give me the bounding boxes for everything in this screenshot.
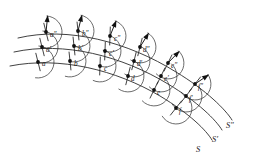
- node-dot-S-c: [98, 64, 102, 68]
- node-dot-S-e: [152, 88, 156, 92]
- wavefront-label-S'': S″: [226, 121, 234, 130]
- point-label-S'-b′: b′: [78, 45, 84, 53]
- normal-arrow-head-d″: [143, 33, 149, 40]
- point-label-S'-a′: a′: [46, 46, 52, 54]
- point-label-S''-b″: b″: [82, 30, 90, 38]
- node-dot-S''-d″: [138, 45, 142, 49]
- wavefront-label-S': S′: [212, 135, 218, 144]
- point-label-S''-a″: a″: [50, 31, 58, 39]
- point-label-S''-f″: f″: [198, 83, 204, 91]
- node-dot-S'-c′: [103, 49, 107, 53]
- wavelet-arc-S-f: [162, 98, 192, 124]
- node-dot-S-d: [126, 74, 130, 78]
- front-label-layer: SS′S″: [196, 121, 234, 154]
- point-label-S'-e′: e′: [164, 75, 169, 83]
- point-label-S-d: d: [131, 75, 135, 83]
- node-dot-S''-a″: [44, 30, 48, 34]
- point-label-S-c: c: [104, 65, 108, 73]
- point-label-S'-f′: f′: [189, 95, 193, 103]
- normal-arrow-head-c″: [111, 20, 116, 27]
- wavelet-arc-layer: [36, 15, 212, 124]
- point-label-S'-d′: d′: [137, 60, 143, 68]
- node-dot-S'-b′: [72, 44, 76, 48]
- node-dot-S'-f′: [184, 94, 188, 98]
- point-label-S''-e″: e″: [171, 62, 178, 70]
- huygens-wavefront-figure: abcdefa′b′c′d′e′f′a″b″c″d″e″f″ SS′S″: [0, 0, 256, 160]
- node-dot-S''-e″: [166, 61, 170, 65]
- node-dot-S-b: [68, 59, 72, 63]
- point-label-S-a: a: [42, 60, 46, 68]
- normal-arrow-head-b″: [78, 15, 83, 22]
- node-dot-S'-e′: [159, 74, 163, 78]
- node-dot-S'-d′: [132, 59, 136, 63]
- wavefront-label-S: S: [196, 145, 201, 154]
- node-dot-S'-a′: [40, 45, 44, 49]
- point-label-S'-c′: c′: [109, 50, 114, 58]
- node-dot-S''-f″: [193, 82, 197, 86]
- node-dot-S''-b″: [76, 29, 80, 33]
- point-label-S''-c″: c″: [114, 35, 121, 43]
- node-dot-S-a: [36, 60, 40, 64]
- normal-arrow-head-f″: [202, 74, 209, 80]
- node-dot-S''-c″: [108, 34, 112, 38]
- node-dot-S-f: [174, 106, 178, 110]
- point-label-S-b: b: [74, 60, 78, 68]
- point-label-layer: abcdefa′b′c′d′e′f′a″b″c″d″e″f″: [42, 30, 204, 115]
- point-label-S''-d″: d″: [143, 46, 151, 54]
- wavefront-diagram-canvas: abcdefa′b′c′d′e′f′a″b″c″d″e″f″ SS′S″: [0, 0, 256, 160]
